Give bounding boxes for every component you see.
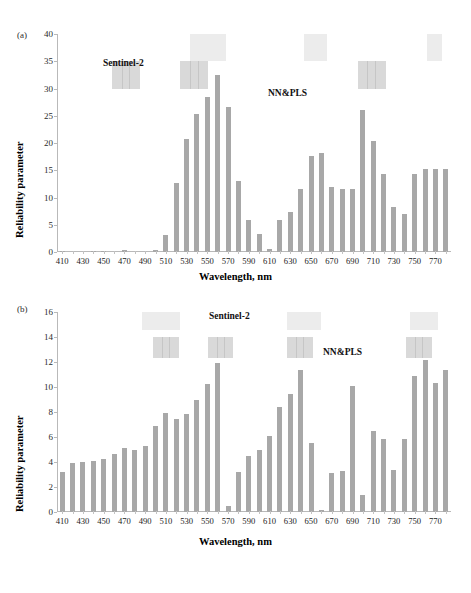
bar: [329, 187, 334, 252]
bar: [443, 169, 448, 252]
bar: [226, 107, 231, 253]
bar: [402, 214, 407, 252]
x-tick-label: 590: [242, 256, 255, 266]
x-tick-label: 730: [388, 256, 401, 266]
x-tick-label: 430: [76, 516, 89, 526]
x-tick-label: 570: [222, 516, 235, 526]
figure-two-bar-charts: (a) Reliability parameter 05101520253035…: [0, 0, 471, 593]
bar: [236, 181, 241, 252]
chart-panel-b: (b) Reliability parameter 0246810121416 …: [0, 300, 471, 590]
bar: [350, 189, 355, 252]
x-tick-mark: [176, 511, 177, 514]
x-tick-mark: [197, 511, 198, 514]
bar: [309, 156, 314, 252]
x-tick-mark: [363, 251, 364, 254]
y-tick-mark: [54, 412, 57, 413]
bar: [60, 472, 65, 512]
x-tick-mark: [228, 251, 229, 254]
bar: [443, 370, 448, 513]
y-tick-label: 35: [44, 56, 53, 66]
x-tick-mark: [311, 251, 312, 254]
x-tick-mark: [207, 251, 208, 254]
bar: [402, 439, 407, 512]
y-tick-mark: [54, 487, 57, 488]
y-tick-label: 15: [44, 165, 53, 175]
x-tick-label: 770: [429, 256, 442, 266]
bar: [174, 183, 179, 252]
x-tick-mark: [156, 251, 157, 254]
y-tick-mark: [54, 34, 57, 35]
panel-a-y-axis-title: Reliability parameter: [14, 141, 25, 238]
bar: [423, 169, 428, 252]
y-tick-label: 25: [44, 111, 53, 121]
y-tick-label: 10: [44, 382, 53, 392]
bar: [184, 414, 189, 512]
y-tick-mark: [54, 312, 57, 313]
x-tick-label: 730: [388, 516, 401, 526]
x-tick-label: 510: [159, 256, 172, 266]
x-tick-mark: [394, 251, 395, 254]
bar: [298, 189, 303, 252]
panel-b-tag: (b): [17, 304, 28, 314]
x-tick-mark: [290, 511, 291, 514]
x-tick-mark: [446, 511, 447, 514]
bar: [288, 394, 293, 512]
y-tick-label: 5: [49, 220, 54, 230]
bar: [184, 139, 189, 252]
y-tick-mark: [54, 437, 57, 438]
panel-b-x-axis-title: Wavelength, nm: [0, 536, 471, 547]
bar: [360, 495, 365, 513]
x-tick-label: 470: [118, 516, 131, 526]
bar: [340, 189, 345, 252]
x-tick-mark: [156, 511, 157, 514]
bar: [122, 448, 127, 512]
x-tick-mark: [135, 251, 136, 254]
x-tick-mark: [218, 251, 219, 254]
x-tick-mark: [301, 251, 302, 254]
bar: [153, 426, 158, 512]
y-tick-mark: [54, 252, 57, 253]
x-tick-mark: [332, 251, 333, 254]
x-tick-mark: [342, 251, 343, 254]
x-tick-mark: [342, 511, 343, 514]
y-tick-label: 0: [49, 507, 54, 517]
panel-a-tag: (a): [17, 30, 27, 40]
bar: [412, 174, 417, 252]
bar: [298, 370, 303, 513]
bar: [194, 400, 199, 512]
bar: [215, 363, 220, 512]
x-tick-label: 430: [76, 256, 89, 266]
bar: [174, 419, 179, 512]
y-tick-mark: [54, 89, 57, 90]
panel-b-x-ticks: 4104304504704905105305505705906106306506…: [57, 514, 451, 528]
x-tick-label: 770: [429, 516, 442, 526]
bar: [194, 114, 199, 252]
x-tick-mark: [280, 251, 281, 254]
bar: [412, 376, 417, 512]
y-tick-label: 4: [49, 457, 54, 467]
x-tick-label: 530: [180, 516, 193, 526]
x-tick-mark: [249, 511, 250, 514]
x-tick-mark: [384, 251, 385, 254]
bar: [143, 446, 148, 512]
bar: [340, 471, 345, 512]
bar: [288, 212, 293, 252]
y-tick-label: 10: [44, 193, 53, 203]
x-tick-mark: [290, 251, 291, 254]
x-tick-mark: [197, 251, 198, 254]
x-tick-label: 710: [367, 256, 380, 266]
bar: [350, 386, 355, 512]
panel-a-x-axis-title: Wavelength, nm: [0, 271, 471, 282]
x-tick-label: 650: [305, 256, 318, 266]
bar: [163, 235, 168, 252]
x-tick-mark: [187, 511, 188, 514]
x-tick-mark: [280, 511, 281, 514]
bar: [80, 462, 85, 512]
y-tick-mark: [54, 512, 57, 513]
y-tick-label: 14: [44, 332, 53, 342]
x-tick-mark: [145, 511, 146, 514]
x-tick-label: 450: [97, 516, 110, 526]
x-tick-label: 690: [346, 256, 359, 266]
bar: [329, 473, 334, 512]
x-tick-mark: [373, 511, 374, 514]
